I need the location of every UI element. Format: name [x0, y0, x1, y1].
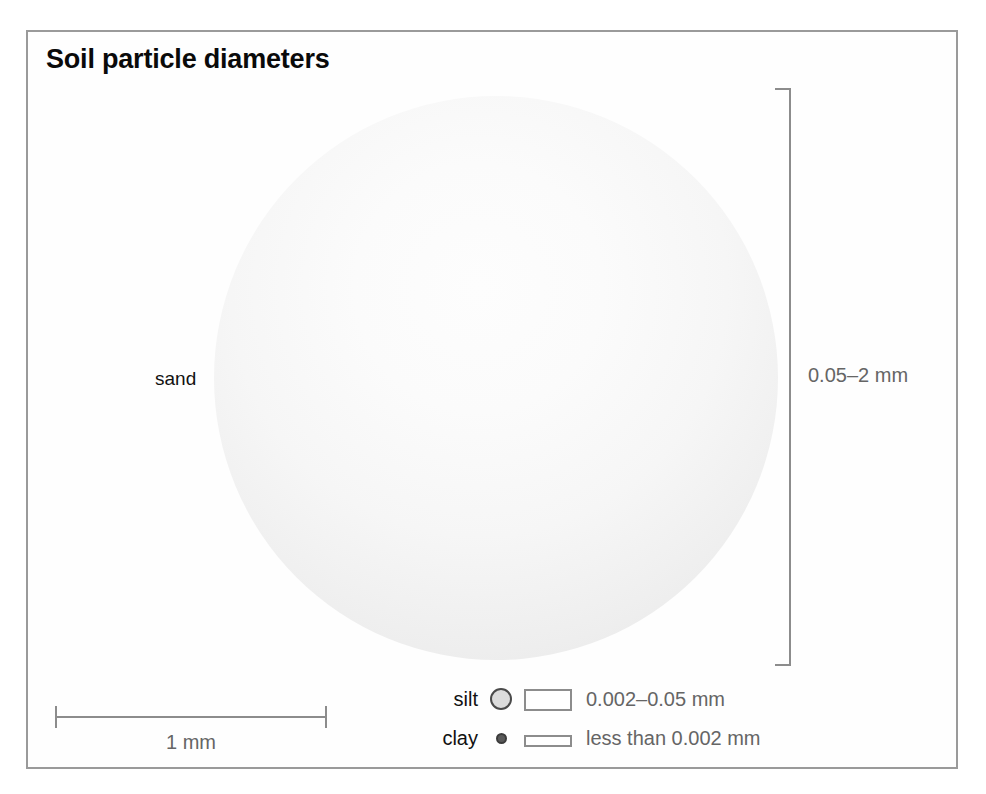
sand-measure-bracket — [775, 88, 791, 666]
sand-size-value: 0.05–2 mm — [808, 364, 908, 387]
clay-size-value: less than 0.002 mm — [586, 727, 761, 750]
silt-bracket-right-cap — [570, 689, 572, 711]
silt-size-value: 0.002–0.05 mm — [586, 688, 725, 711]
bracket-bottom-tick — [775, 664, 791, 666]
scale-bar-label: 1 mm — [55, 731, 327, 754]
clay-particle-dot-icon — [496, 733, 507, 744]
clay-bracket-bottom-line — [524, 745, 572, 747]
clay-swatch — [488, 733, 514, 744]
soil-particle-diagram: Soil particle diameters sand 0.05–2 mm 1… — [0, 0, 986, 794]
clay-measure-bracket — [524, 726, 572, 750]
clay-bracket-right-cap — [570, 735, 572, 747]
scale-bar-left-cap — [55, 706, 57, 728]
silt-bracket-left-cap — [524, 689, 526, 711]
figure-title: Soil particle diameters — [46, 44, 330, 75]
scale-bar — [55, 706, 327, 728]
clay-bracket-top-line — [524, 735, 572, 737]
scale-bar-right-cap — [325, 706, 327, 728]
sand-label: sand — [155, 368, 196, 390]
clay-bracket-left-cap — [524, 735, 526, 747]
clay-label: clay — [436, 727, 478, 750]
silt-swatch — [488, 688, 514, 710]
legend-row-silt: silt 0.002–0.05 mm — [436, 684, 725, 714]
legend-row-clay: clay less than 0.002 mm — [436, 723, 761, 753]
silt-label: silt — [436, 688, 478, 711]
silt-bracket-bottom-line — [524, 709, 572, 711]
silt-bracket-top-line — [524, 689, 572, 691]
scale-bar-line — [55, 716, 327, 718]
bracket-top-tick — [775, 88, 791, 90]
silt-measure-bracket — [524, 687, 572, 711]
sand-particle-circle-icon — [214, 96, 778, 660]
silt-particle-circle-icon — [490, 688, 512, 710]
bracket-vertical-line — [789, 88, 791, 666]
